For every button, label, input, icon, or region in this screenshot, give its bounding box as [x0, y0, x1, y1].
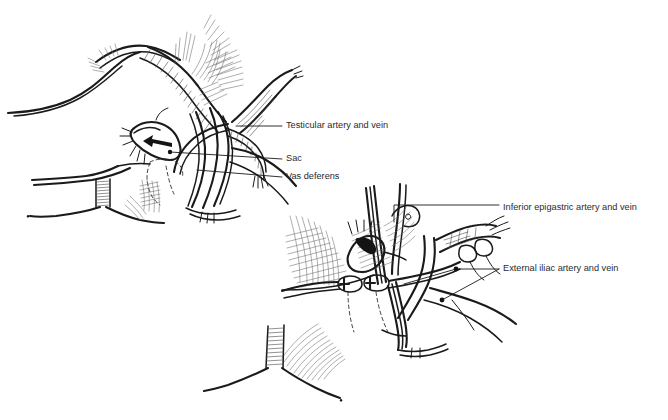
label-inferior-epigastric-artery-and-vein: Inferior epigastric artery and vein — [503, 202, 637, 212]
figure-root: Testicular artery and vein Sac Vas defer… — [0, 0, 668, 420]
label-testicular-artery-and-vein: Testicular artery and vein — [286, 120, 388, 130]
label-external-iliac-artery-and-vein: External iliac artery and vein — [503, 263, 618, 273]
label-vas-deferens: Vas deferens — [286, 171, 340, 181]
median-ligament-lower-right — [283, 325, 284, 368]
branch-tip-dot-right — [340, 399, 343, 402]
anatomy-illustration: Testicular artery and vein Sac Vas defer… — [0, 0, 668, 420]
branch-tip-dot-left — [27, 215, 30, 218]
label-sac: Sac — [286, 153, 302, 163]
